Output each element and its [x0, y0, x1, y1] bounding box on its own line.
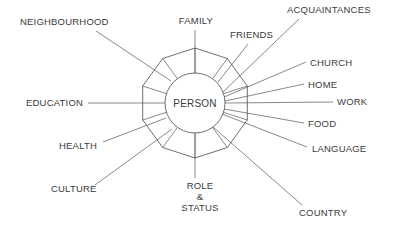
node-label-culture: CULTURE	[51, 183, 97, 194]
node-label-education: EDUCATION	[26, 97, 83, 108]
node-label-home: HOME	[308, 79, 337, 90]
node-label-food: FOOD	[308, 118, 336, 129]
leader-line-friends	[218, 44, 248, 82]
leader-line-country	[213, 127, 302, 205]
node-label-language: LANGUAGE	[312, 143, 366, 154]
node-label-country: COUNTRY	[299, 207, 348, 218]
node-label-role-status: ROLE&STATUS	[181, 180, 218, 213]
node-label-health: HEALTH	[59, 140, 97, 151]
node-label-work: WORK	[337, 96, 368, 107]
leader-line-language	[222, 114, 307, 147]
node-label-neighbourhood: NEIGHBOURHOOD	[20, 16, 109, 27]
person-center-label: PERSON	[173, 98, 216, 109]
leader-line-neighbourhood	[96, 31, 171, 81]
social-environment-diagram: PERSON FAMILYFRIENDSACQUAINTANCESCHURCHH…	[0, 0, 396, 234]
ring-connector	[213, 59, 228, 79]
node-label-family: FAMILY	[179, 15, 214, 26]
ring-connector	[163, 59, 178, 79]
node-label-church: CHURCH	[310, 57, 352, 68]
node-label-acquaintances: ACQUAINTANCES	[287, 4, 371, 15]
ring-connector	[224, 86, 248, 94]
ring-connector	[143, 86, 167, 94]
leader-line-culture	[95, 129, 172, 185]
radial-spokes-group	[88, 19, 333, 205]
node-label-friends: FRIENDS	[230, 29, 273, 40]
leader-line-home	[225, 84, 304, 101]
leader-line-work	[225, 102, 333, 103]
diagram-canvas: PERSON FAMILYFRIENDSACQUAINTANCESCHURCHH…	[0, 0, 396, 234]
node-labels-group: FAMILYFRIENDSACQUAINTANCESCHURCHHOMEWORK…	[20, 4, 371, 218]
